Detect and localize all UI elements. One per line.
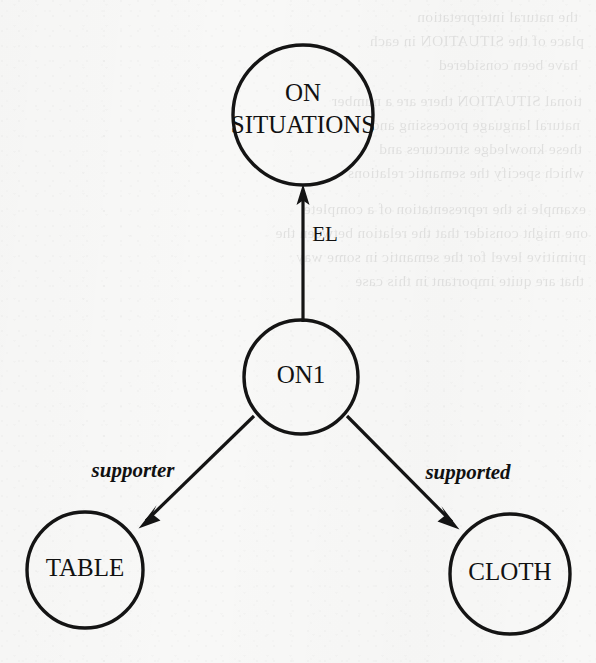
node-on1-label: ON1 [277, 361, 326, 388]
edge-el[interactable]: EL [297, 184, 338, 322]
semantic-network-diagram: EL supporter supported ON SITUATIONS ON1… [0, 0, 596, 663]
edge-el-label: EL [312, 222, 338, 246]
node-table-label: TABLE [46, 554, 125, 581]
node-cloth-label: CLOTH [468, 558, 551, 585]
edge-supporter-label: supporter [91, 458, 176, 482]
node-cloth[interactable]: CLOTH [450, 514, 570, 634]
edge-supported-label: supported [424, 460, 511, 484]
edge-supported[interactable]: supported [347, 416, 511, 530]
node-on-situations-label-line1: ON [285, 79, 321, 106]
node-table[interactable]: TABLE [27, 512, 143, 628]
node-on1[interactable]: ON1 [244, 320, 358, 434]
node-on-situations-label-line2: SITUATIONS [231, 111, 375, 138]
edge-supporter[interactable]: supporter [91, 416, 254, 529]
node-on-situations[interactable]: ON SITUATIONS [231, 45, 375, 185]
